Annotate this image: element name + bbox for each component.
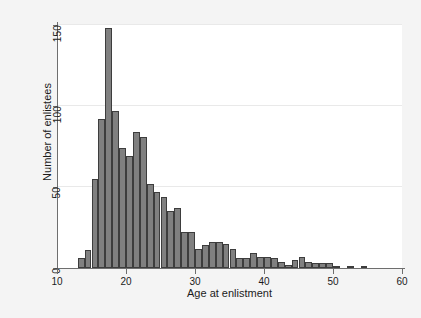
x-axis-line [57, 268, 405, 269]
x-tick-label: 60 [396, 276, 407, 287]
x-tick-mark [57, 269, 58, 274]
histogram-bar [223, 244, 230, 268]
histogram-bar [112, 111, 119, 268]
histogram-bar [216, 242, 223, 268]
y-axis-title: Number of enlistees [41, 37, 53, 227]
x-tick-mark [126, 269, 127, 274]
x-tick-label: 10 [51, 276, 62, 287]
histogram-bar [236, 258, 243, 268]
histogram-bar [230, 249, 237, 268]
x-tick-label: 50 [327, 276, 338, 287]
histogram-bar [202, 245, 209, 268]
histogram-bar [105, 28, 112, 268]
histogram-bar [181, 232, 188, 268]
histogram-bar [119, 148, 126, 268]
y-axis-line [57, 22, 58, 271]
histogram-bar [140, 137, 147, 268]
histogram-bar [154, 192, 161, 268]
histogram-bar [243, 258, 250, 268]
histogram-bar [133, 132, 140, 268]
y-tick-label: 100 [51, 106, 62, 123]
histogram-bar [78, 258, 85, 268]
histogram-bar [271, 258, 278, 268]
histogram-bar [161, 197, 168, 268]
histogram-bar [209, 242, 216, 268]
x-tick-mark [402, 269, 403, 274]
plot-panel [57, 25, 402, 268]
y-tick-label: 150 [51, 25, 62, 42]
x-tick-label: 20 [120, 276, 131, 287]
histogram-bar [292, 260, 299, 268]
histogram-bar [195, 249, 202, 268]
histogram-bar [167, 211, 174, 268]
x-axis-title: Age at enlistment [57, 287, 402, 299]
histogram-bar [85, 250, 92, 268]
histogram-bar [98, 119, 105, 268]
x-tick-label: 30 [189, 276, 200, 287]
histogram-bar [147, 184, 154, 268]
y-axis-title-wrapper: Number of enlistees [14, 20, 34, 270]
y-tick-label: 50 [51, 187, 62, 199]
x-tick-mark [195, 269, 196, 274]
histogram-bar [250, 253, 257, 268]
x-tick-mark [333, 269, 334, 274]
histogram-bar [92, 179, 99, 268]
histogram-bar [174, 208, 181, 268]
histogram-bar [264, 257, 271, 268]
histogram-figure: 050100150 102030405060 Age at enlistment… [0, 0, 421, 318]
histogram-bar [257, 257, 264, 268]
histogram-bar [299, 257, 306, 268]
x-tick-label: 40 [258, 276, 269, 287]
histogram-bar [126, 156, 133, 268]
x-tick-mark [264, 269, 265, 274]
gridline-y-150 [57, 24, 402, 25]
histogram-bar [188, 232, 195, 268]
